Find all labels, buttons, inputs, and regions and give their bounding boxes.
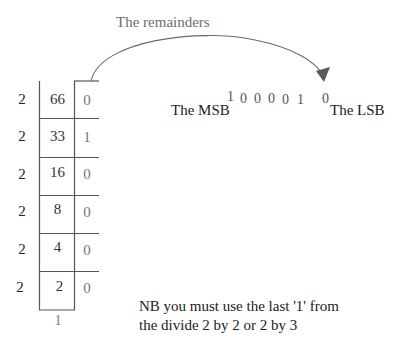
divisor-row-6: 2	[14, 279, 26, 296]
note-line-2: the divide 2 by 2 or 2 by 3	[139, 316, 297, 335]
remainder-row-3: 0	[77, 166, 97, 183]
remainders-arrow	[91, 36, 322, 81]
divisor-row-5: 2	[16, 241, 28, 258]
binary-digit-5: 0	[282, 92, 289, 108]
quotient-row-1: 66	[40, 91, 75, 108]
quotient-row-5: 4	[40, 239, 75, 256]
binary-digit-4: 0	[268, 91, 275, 107]
divisor-row-1: 2	[16, 91, 28, 108]
quotient-row-6: 2	[42, 278, 77, 295]
msb-label: The MSB	[171, 102, 230, 119]
divisor-row-4: 2	[16, 203, 28, 220]
binary-digit-2: 0	[240, 91, 247, 107]
remainder-row-4: 0	[77, 204, 97, 221]
divisor-row-3: 2	[16, 166, 28, 183]
remainder-row-2: 1	[77, 129, 97, 146]
binary-digit-6: 1	[297, 92, 304, 108]
remainder-row-6: 0	[77, 280, 97, 297]
note-line-1: NB you must use the last '1' from	[139, 297, 339, 316]
remainder-row-1: 0	[77, 92, 97, 109]
quotient-row-2: 33	[40, 128, 75, 145]
binary-digit-3: 0	[254, 91, 261, 107]
remainders-title: The remainders	[116, 14, 210, 31]
divisor-row-2: 2	[16, 128, 28, 145]
remainder-row-5: 0	[77, 242, 97, 259]
quotient-row-4: 8	[40, 201, 75, 218]
final-quotient: 1	[48, 313, 68, 329]
binary-digit-7: 0	[322, 91, 329, 107]
quotient-row-3: 16	[40, 164, 75, 181]
lsb-label: The LSB	[330, 102, 385, 119]
